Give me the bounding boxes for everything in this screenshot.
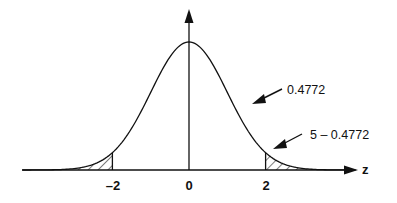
tick-label-minus-2: –2 [106,178,120,193]
x-axis-arrow-icon [344,166,358,175]
central-area-arrow-icon [252,94,266,104]
y-axis-arrow-icon [185,9,194,23]
tick-label-0: 0 [185,178,192,193]
tick-label-2: 2 [262,178,269,193]
normal-curve-figure: z –2 0 2 0.4772 5 – 0.4772 [0,0,397,203]
tail-area-label: 5 – 0.4772 [310,128,369,142]
central-area-label: 0.4772 [287,83,325,97]
x-axis-label: z [362,162,369,177]
tail-area-arrow-icon [273,139,287,149]
